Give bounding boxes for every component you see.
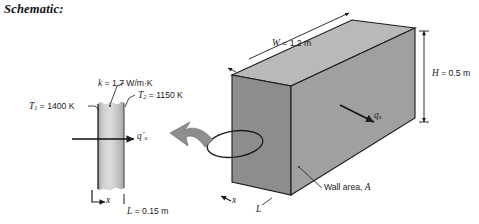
- t2-leader: [125, 95, 135, 107]
- width-dimension-tick: [228, 68, 236, 72]
- schematic-drawing: [0, 0, 479, 224]
- height-dimension-line: [419, 31, 429, 122]
- box-x-axis-arrow: [221, 196, 231, 201]
- box-height-label: H = 0.5 m: [432, 68, 470, 78]
- box-thickness-label: L: [256, 203, 261, 214]
- slab-length-label: L = 0.15 m: [127, 206, 168, 216]
- slab-t1-label: T1 = 1400 K: [29, 101, 74, 111]
- slab-t2-label: T2 = 1150 K: [138, 90, 183, 100]
- schematic-figure-page: Schematic:: [0, 0, 479, 224]
- box-heat-rate-label: qx: [374, 110, 382, 120]
- box-width-label: W = 1.2 m: [272, 38, 311, 48]
- slab-x-axis: [92, 190, 105, 202]
- slab-heat-flux-label: q″x: [137, 130, 147, 141]
- magnify-callout-arrow: [170, 122, 213, 147]
- slab-conductivity-label: k = 1.7 W/m·K: [98, 78, 153, 88]
- wall-area-label: Wall area, A: [324, 182, 371, 192]
- box-thickness-leader: [262, 198, 272, 205]
- wall-box-left-face: [232, 75, 291, 195]
- slab-body: [98, 102, 124, 191]
- slab-x-axis-label: x: [106, 194, 110, 205]
- box-x-axis-label: x: [232, 194, 236, 205]
